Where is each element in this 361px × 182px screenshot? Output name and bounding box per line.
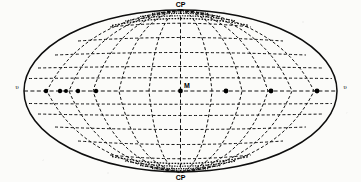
source-dot — [94, 89, 98, 93]
source-dot — [44, 89, 48, 93]
meridian-120w — [69, 10, 181, 172]
center-marker-dot — [178, 89, 183, 94]
center-label: M — [184, 82, 190, 89]
north-pole-label: CP — [176, 1, 186, 8]
source-dot — [269, 89, 274, 94]
source-dot — [58, 89, 62, 93]
source-dot — [64, 89, 68, 93]
left-edge-label: υ — [15, 83, 18, 90]
source-dot — [315, 89, 320, 94]
source-dot — [76, 89, 80, 93]
right-edge-label: υ — [343, 83, 346, 90]
source-dot — [224, 89, 229, 94]
sky-map-canvas: CP CP υ υ M — [0, 0, 361, 182]
south-pole-label: CP — [176, 174, 186, 181]
all-sky-map-figure: CP CP υ υ M — [0, 0, 361, 182]
